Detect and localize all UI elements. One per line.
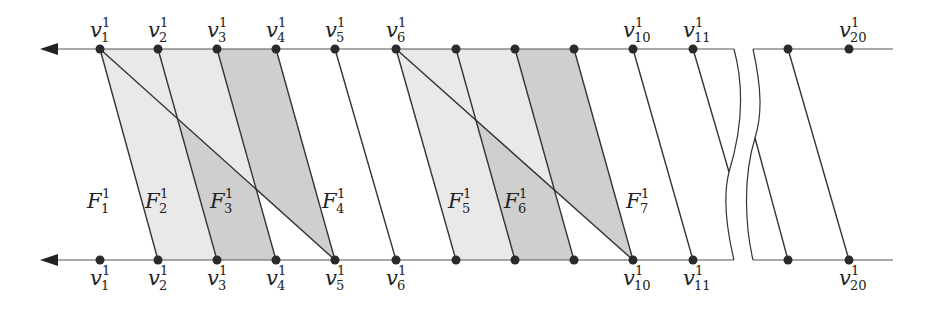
slanted-edge [633,49,693,260]
vertex-dot [629,45,638,54]
slanted-edge [788,49,849,260]
slanted-edge [755,138,788,260]
vertex-label-subscript: 10 [634,30,651,45]
vertex-label-subscript: 6 [397,278,405,293]
vertex-dot [272,45,281,54]
vertex-label-superscript: 1 [695,15,703,30]
shaded-faces [100,49,633,260]
vertex-label-superscript: 1 [102,263,110,278]
vertex-label-subscript: 2 [159,30,167,45]
vertex-label-subscript: 1 [101,278,109,293]
vertex-label-superscript: 1 [398,15,406,30]
face-label-subscript: 7 [640,201,648,216]
vertex-label-subscript: 4 [277,278,285,293]
vertex-label-subscript: 6 [397,30,405,45]
face-label-subscript: 5 [462,201,470,216]
vertex-label-superscript: 1 [851,263,859,278]
vertex-dot [511,45,520,54]
vertex-dot [213,45,222,54]
vertex-label-superscript: 1 [398,263,406,278]
vertex-label-subscript: 1 [101,30,109,45]
vertex-label-subscript: 3 [218,278,226,293]
vertex-label-subscript: 3 [218,30,226,45]
slanted-edge [335,49,396,260]
break-curve-left [726,49,741,260]
vertex-label-subscript: 5 [336,278,344,293]
face-label-subscript: 6 [518,201,526,216]
vertex-dot [570,45,579,54]
vertex-dot [511,256,520,265]
face-label-superscript: 1 [102,186,110,201]
vertex-label-subscript: 20 [850,30,867,45]
vertex-label-superscript: 1 [278,15,286,30]
vertex-label-superscript: 1 [160,15,168,30]
vertex-dot [784,45,793,54]
vertex-label-superscript: 1 [337,15,345,30]
arrow-left-icon [40,43,58,55]
slanted-edge [693,49,729,172]
vertex-label-superscript: 1 [695,263,703,278]
vertex-label-superscript: 1 [278,263,286,278]
vertex-label-superscript: 1 [219,263,227,278]
face-label-subscript: 3 [224,201,232,216]
vertex-label-superscript: 1 [851,15,859,30]
vertex-label-superscript: 1 [635,263,643,278]
vertex-dot [689,45,698,54]
face-label-superscript: 1 [463,186,471,201]
vertex-dot [392,45,401,54]
vertex-label-superscript: 1 [102,15,110,30]
vertex-dot [570,256,579,265]
face-label-subscript: 4 [336,201,344,216]
vertex-label-subscript: 10 [634,278,651,293]
vertex-dot [845,45,854,54]
break-curve-right [746,49,760,260]
vertex-label-subscript: 20 [850,278,867,293]
face-label-superscript: 1 [337,186,345,201]
face-label-superscript: 1 [160,186,168,201]
vertex-dot [154,45,163,54]
face-label-superscript: 1 [519,186,527,201]
vertex-label-subscript: 11 [694,30,711,45]
face-label-superscript: 1 [225,186,233,201]
face-label-superscript: 1 [641,186,649,201]
vertex-dot [784,256,793,265]
diagram-canvas: v11v12v13v14v15v16v110v111v120v11v12v13v… [0,0,927,310]
vertex-dot [452,256,461,265]
face-label-subscript: 1 [101,201,109,216]
vertex-dot [96,45,105,54]
vertex-dot [452,45,461,54]
vertex-label-subscript: 11 [694,278,711,293]
arrow-left-icon [40,254,58,266]
vertex-label-superscript: 1 [160,263,168,278]
vertex-label-superscript: 1 [635,15,643,30]
vertex-dot [331,45,340,54]
vertex-label-superscript: 1 [219,15,227,30]
vertex-label-superscript: 1 [337,263,345,278]
vertex-label-subscript: 5 [336,30,344,45]
vertex-label-subscript: 2 [159,278,167,293]
face-label-subscript: 2 [159,201,167,216]
vertex-label-subscript: 4 [277,30,285,45]
